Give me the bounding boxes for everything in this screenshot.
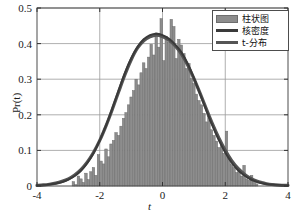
legend-line-icon: [216, 26, 238, 36]
y-axis-label: Pr(t): [10, 73, 22, 133]
y-tick-label: 0: [0, 180, 32, 192]
legend-line-thick-icon: [216, 38, 238, 48]
y-tick-label: 0.5: [0, 2, 32, 14]
legend-patch-icon: [216, 14, 238, 24]
x-axis-label: t: [0, 200, 299, 212]
legend-label-kde: 核密度: [242, 26, 269, 36]
legend-item-kde: 核密度: [216, 25, 285, 36]
legend-label-histogram: 柱状图: [242, 14, 269, 24]
legend-item-tdist: t-分布: [216, 37, 285, 48]
chart-figure: 00.10.20.30.40.5 -4-2024 Pr(t) t 柱状图 核密度…: [0, 0, 299, 215]
legend-item-histogram: 柱状图: [216, 13, 285, 24]
y-tick-label: 0.1: [0, 144, 32, 156]
chart-legend: 柱状图 核密度 t-分布: [212, 10, 289, 51]
legend-label-tdist: t-分布: [242, 38, 267, 48]
y-tick-label: 0.4: [0, 38, 32, 50]
